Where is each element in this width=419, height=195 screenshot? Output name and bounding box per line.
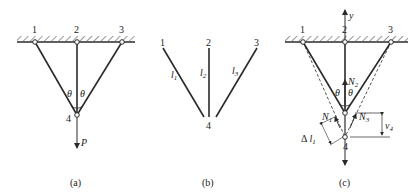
dl1-extension-bottom: [330, 137, 343, 145]
node-label-1: 1: [300, 24, 305, 35]
bar-l1: [163, 48, 204, 117]
bar-1: [303, 42, 345, 113]
node-3: [389, 40, 394, 45]
caption-a: (a): [70, 177, 81, 189]
dl1-dimension-arrow: [322, 125, 331, 144]
node-label-1: 1: [32, 24, 37, 35]
panel-a: 1 2 3 4 θ θ P (a): [17, 24, 135, 189]
force-arrow-n1: [335, 117, 340, 128]
node-4-original: [343, 111, 348, 116]
panel-b: 1 2 3 4 l1 l2 l3 (b): [160, 37, 259, 189]
load-label: P: [80, 137, 87, 148]
node-label-4: 4: [206, 120, 211, 131]
v4-label: v4: [385, 120, 393, 133]
node-1: [33, 40, 38, 45]
node-label-2: 2: [206, 37, 211, 48]
angle-label-right: θ: [348, 87, 353, 98]
node-label-4: 4: [343, 141, 348, 152]
node-label-2: 2: [74, 24, 79, 35]
caption-c: (c): [339, 177, 350, 189]
node-2: [75, 40, 80, 45]
force-arrow-n3: [350, 114, 356, 128]
bar-1: [35, 42, 77, 115]
bar-3: [77, 42, 122, 115]
truss-diagram: 1 2 3 4 θ θ P (a) 1 2 3 4 l1 l2 l3 (b) y: [0, 0, 419, 195]
angle-label-left: θ: [335, 87, 340, 98]
bar-l3: [216, 48, 257, 117]
node-4-displaced: [343, 135, 348, 140]
caption-b: (b): [202, 177, 214, 189]
node-label-4: 4: [66, 113, 71, 124]
angle-label-left: θ: [67, 88, 72, 99]
node-label-2: 2: [342, 24, 347, 35]
node-4: [75, 113, 80, 118]
node-label-3: 3: [119, 24, 124, 35]
dl1-label: Δ l1: [301, 133, 316, 146]
node-label-3: 3: [254, 37, 259, 48]
y-axis-label: y: [348, 10, 354, 21]
bar-label-l2: l2: [200, 67, 207, 80]
node-2: [343, 40, 348, 45]
bar-label-l3: l3: [232, 65, 239, 78]
force-label-n1: N1: [321, 111, 332, 124]
node-label-1: 1: [160, 37, 165, 48]
panel-c: y v4 Δ l1 1 2 3 4: [285, 10, 408, 189]
node-1: [301, 40, 306, 45]
node-3: [120, 40, 125, 45]
angle-label-right: θ: [80, 88, 85, 99]
node-label-3: 3: [388, 24, 393, 35]
